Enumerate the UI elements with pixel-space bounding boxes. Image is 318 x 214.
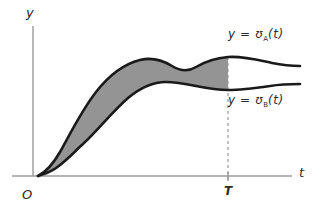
curve-label-vA-prefix: y = ʊ [228, 27, 263, 41]
curve-label-vA-suffix: (t) [268, 27, 284, 41]
curve-label-vA: y = ʊA(t) [228, 28, 284, 43]
origin-label: O [22, 188, 32, 201]
y-axis-label: y [26, 6, 34, 19]
tick-label-T: T [224, 185, 232, 197]
x-axis-label: t [299, 166, 304, 179]
curve-label-vB-prefix: y = ʊ [228, 93, 263, 107]
curve-label-vB-suffix: (t) [268, 93, 284, 107]
curve-label-vB: y = ʊB(t) [228, 94, 284, 109]
velocity-comparison-figure: y t O T y = ʊA(t) y = ʊB(t) [0, 0, 318, 214]
